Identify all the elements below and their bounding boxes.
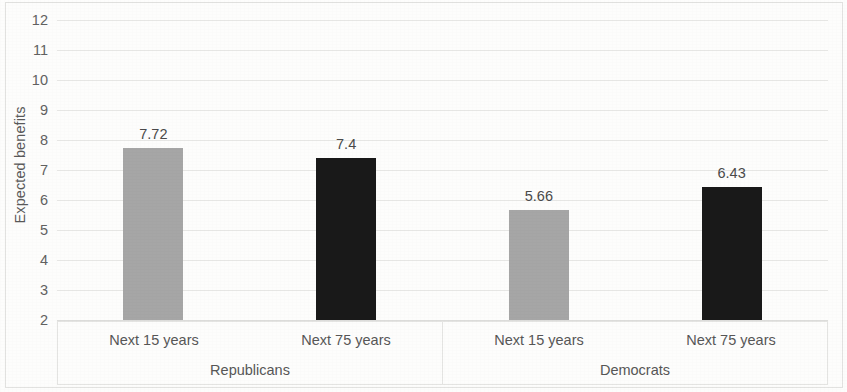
y-axis-tick-label: 3 xyxy=(40,282,48,298)
bar-democrats-next-15-years xyxy=(509,210,569,320)
y-axis-tick-label: 7 xyxy=(40,162,48,178)
y-axis-title-label: Expected benefits xyxy=(12,107,28,224)
y-axis-tick-label: 2 xyxy=(40,312,48,328)
category-label-next-15-years: Next 15 years xyxy=(443,326,635,354)
category-group-republicans: Next 15 yearsNext 75 yearsRepublicans xyxy=(58,322,442,384)
y-axis-tick-label: 8 xyxy=(40,132,48,148)
y-axis-tick-label: 10 xyxy=(32,72,48,88)
y-axis-tick-label: 5 xyxy=(40,222,48,238)
group-label-republicans: Republicans xyxy=(58,362,442,378)
bar-republicans-next-75-years xyxy=(316,158,376,320)
y-axis-tick-label: 9 xyxy=(40,102,48,118)
bar-republicans-next-15-years xyxy=(123,148,183,320)
category-sublabels: Next 15 yearsNext 75 years xyxy=(443,326,827,354)
y-axis-tick-label: 11 xyxy=(33,42,48,58)
category-group-democrats: Next 15 yearsNext 75 yearsDemocrats xyxy=(442,322,827,384)
bar-value-label: 5.66 xyxy=(525,188,553,204)
category-label-next-75-years: Next 75 years xyxy=(635,326,827,354)
category-axis: Next 15 yearsNext 75 yearsRepublicansNex… xyxy=(57,321,828,385)
category-label-next-15-years: Next 15 years xyxy=(58,326,250,354)
bar-value-label: 7.4 xyxy=(336,136,356,152)
gridline xyxy=(57,110,828,111)
y-axis-tick-label: 12 xyxy=(32,12,48,28)
bar-chart-figure: Expected benefits 12111098765432 7.727.4… xyxy=(0,0,847,392)
y-axis-tick-label: 6 xyxy=(40,192,48,208)
group-label-democrats: Democrats xyxy=(443,362,827,378)
gridline xyxy=(57,50,828,51)
y-axis-tick-label: 4 xyxy=(40,252,48,268)
category-sublabels: Next 15 yearsNext 75 years xyxy=(58,326,442,354)
gridline xyxy=(57,20,828,21)
gridline xyxy=(57,80,828,81)
bar-democrats-next-75-years xyxy=(702,187,762,320)
gridline xyxy=(57,140,828,141)
bar-value-label: 7.72 xyxy=(139,126,167,142)
category-label-next-75-years: Next 75 years xyxy=(250,326,442,354)
bar-value-label: 6.43 xyxy=(718,165,746,181)
plot-area: 12111098765432 7.727.45.666.43 xyxy=(57,20,828,320)
